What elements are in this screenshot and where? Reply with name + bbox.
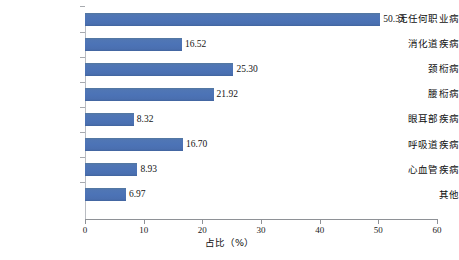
bar [85,88,214,101]
x-tick-mark [144,220,145,224]
x-tick-mark [320,220,321,224]
bar-value-label: 8.93 [137,162,157,176]
bar [85,113,134,126]
bar-value-label: 25.30 [233,62,257,76]
x-tick-label: 20 [198,225,207,236]
bar-value-label: 16.52 [182,37,206,51]
bar-row: 16.70 [85,138,437,151]
bar [85,138,183,151]
bar [85,163,137,176]
bar-row: 21.92 [85,88,437,101]
bar-value-label: 21.92 [214,87,238,101]
x-tick-mark [202,220,203,224]
bar [85,13,380,26]
x-tick-label: 0 [83,225,88,236]
x-axis-title: 占比（%） [0,237,459,249]
x-tick-mark [378,220,379,224]
bar-value-label: 50.33 [380,12,404,26]
bar-value-label: 16.70 [183,137,207,151]
bar-row: 25.30 [85,63,437,76]
bar-row: 16.52 [85,38,437,51]
x-tick-mark [85,220,86,224]
bar-row: 8.93 [85,163,437,176]
x-tick-mark [437,220,438,224]
bar-value-label: 6.97 [126,187,146,201]
y-tick-mark [80,157,85,158]
bar [85,38,182,51]
bar [85,188,126,201]
x-tick-label: 10 [139,225,148,236]
x-tick-label: 60 [433,225,442,236]
y-tick-mark [80,182,85,183]
bar-row: 8.32 [85,113,437,126]
y-tick-mark [80,57,85,58]
y-tick-mark [80,132,85,133]
y-tick-mark [80,32,85,33]
y-tick-mark [80,82,85,83]
y-tick-mark [80,6,85,7]
bar [85,63,233,76]
bar-row: 6.97 [85,188,437,201]
bar-row: 50.33 [85,13,437,26]
x-tick-mark [261,220,262,224]
x-tick-label: 30 [257,225,266,236]
bar-value-label: 8.32 [134,112,154,126]
x-tick-label: 40 [315,225,324,236]
x-tick-label: 50 [374,225,383,236]
y-tick-mark [80,107,85,108]
bar-chart: 0102030405060 无任何职业病消化道疾病颈椼病腰椼病眼耳部疾病呼吸道疾… [0,0,459,260]
